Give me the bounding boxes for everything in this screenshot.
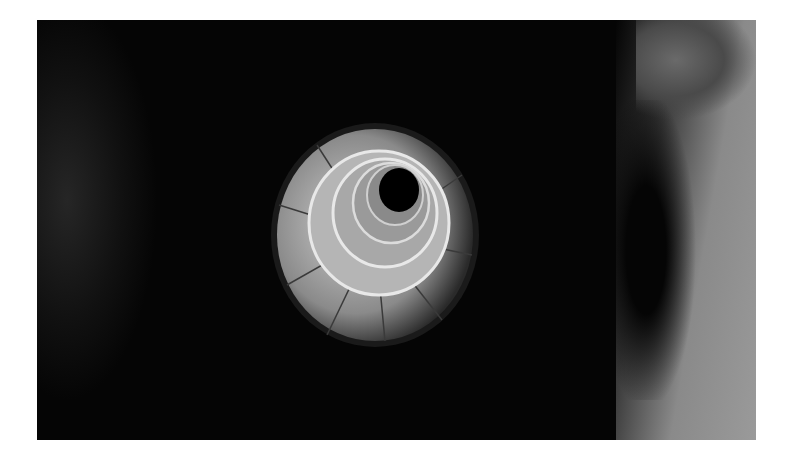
- photograph: [37, 20, 756, 440]
- dark-stone-left: [37, 20, 187, 440]
- center-void: [379, 168, 419, 212]
- spiral-staircase: [267, 115, 487, 355]
- wall-shadow: [616, 100, 716, 400]
